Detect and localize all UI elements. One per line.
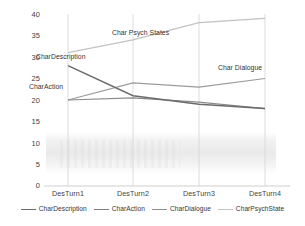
legend-label-charaction: CharAction: [112, 205, 145, 213]
series-line-chardialogue: [68, 79, 265, 101]
series-line-chardescription: [68, 66, 265, 109]
chart-legend: CharDescription CharAction CharDialogue …: [0, 205, 305, 213]
x-tick-desturn4: DesTurn4: [241, 190, 289, 198]
legend-item-chardescription[interactable]: CharDescription: [21, 205, 87, 213]
legend-swatch-chardialogue: [152, 209, 167, 210]
annotation-chardialogue: Char Dialogue: [218, 64, 262, 72]
x-tick-desturn1: DesTurn1: [44, 190, 92, 198]
annotation-chardescription: CharDescription: [36, 53, 85, 61]
legend-label-charpsychstate: CharPsychState: [236, 205, 284, 213]
legend-item-chardialogue[interactable]: CharDialogue: [152, 205, 211, 213]
line-chart: 40 35 30 25 20 15 10 5 0 Char Psych Stat…: [0, 0, 305, 226]
legend-item-charaction[interactable]: CharAction: [94, 205, 145, 213]
annotation-charaction: CharAction: [29, 83, 63, 91]
legend-item-charpsychstate[interactable]: CharPsychState: [218, 205, 284, 213]
annotation-charpsychstates: Char Psych States: [112, 29, 169, 37]
x-tick-desturn2: DesTurn2: [109, 190, 157, 198]
legend-label-chardescription: CharDescription: [39, 205, 87, 213]
legend-swatch-chardescription: [21, 209, 36, 210]
x-tick-desturn3: DesTurn3: [175, 190, 223, 198]
legend-swatch-charaction: [94, 209, 109, 210]
legend-label-chardialogue: CharDialogue: [170, 205, 211, 213]
legend-swatch-charpsychstate: [218, 209, 233, 210]
